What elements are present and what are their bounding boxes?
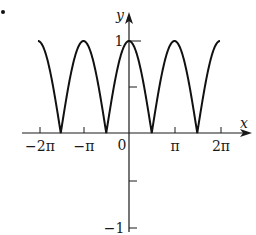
x-tick-label-pi: π: [170, 138, 179, 154]
x-axis-label: x: [240, 115, 248, 131]
x-tick-label-neg2pi: −2π: [25, 138, 55, 154]
y-axis-label: y: [115, 7, 125, 23]
y-ticks: [129, 41, 141, 228]
x-tick-label-negpi: −π: [74, 138, 95, 154]
y-tick-label-1: 1: [115, 33, 124, 49]
x-ticks: [40, 127, 221, 133]
function-plot: x y −2π −π 0 π 2π 1 −1: [0, 0, 256, 235]
x-tick-label-2pi: 2π: [212, 138, 230, 154]
y-tick-label-neg1: −1: [104, 220, 125, 235]
x-tick-label-zero: 0: [118, 137, 127, 153]
